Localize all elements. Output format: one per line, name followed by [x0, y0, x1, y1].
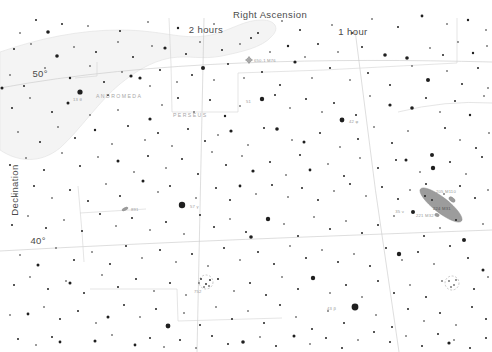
star [119, 30, 121, 32]
star [69, 282, 72, 285]
star [488, 132, 490, 134]
star [487, 87, 489, 89]
star [273, 263, 275, 265]
star [51, 111, 53, 113]
star [77, 310, 79, 312]
star [485, 318, 487, 320]
star [355, 114, 357, 116]
star [57, 126, 59, 128]
star [101, 274, 103, 276]
star [239, 43, 241, 45]
star [361, 46, 363, 48]
star [441, 280, 443, 282]
star [483, 95, 485, 97]
star [144, 139, 146, 141]
star [181, 158, 183, 160]
star [337, 261, 339, 263]
star [123, 304, 125, 306]
star [30, 43, 32, 45]
star [203, 286, 205, 288]
star [319, 132, 321, 134]
star [99, 213, 101, 215]
star [61, 152, 63, 154]
star-label: 205 M110 [436, 189, 456, 194]
star [227, 63, 229, 65]
star [305, 98, 307, 100]
star [472, 52, 474, 54]
star [453, 339, 455, 341]
galaxy-symbol [435, 213, 440, 217]
star [477, 67, 479, 69]
star [142, 180, 145, 183]
star [179, 339, 181, 341]
star [138, 76, 141, 79]
star [117, 109, 119, 111]
star [148, 117, 151, 120]
star [357, 138, 359, 140]
star [261, 71, 263, 73]
star [430, 153, 434, 157]
star [217, 278, 219, 280]
star [183, 233, 185, 235]
star [293, 60, 296, 63]
milky-way-region [0, 20, 276, 160]
star [55, 247, 57, 249]
star [209, 279, 211, 281]
star [13, 284, 15, 286]
star [339, 146, 341, 148]
star [297, 235, 299, 237]
star [369, 265, 371, 267]
star [285, 174, 287, 176]
star [266, 217, 270, 221]
star [407, 308, 409, 310]
star [177, 97, 179, 99]
star [87, 200, 89, 202]
star [257, 251, 259, 253]
star [183, 312, 185, 314]
star [317, 43, 319, 45]
star [175, 261, 177, 263]
star [132, 56, 134, 58]
star [425, 183, 427, 185]
star [442, 54, 444, 56]
star [45, 227, 47, 229]
star [309, 169, 312, 172]
star-label: 57 γ [190, 204, 199, 209]
star [391, 326, 393, 328]
star [397, 198, 399, 200]
star [211, 335, 213, 337]
star [89, 65, 91, 67]
star [197, 173, 199, 175]
star [388, 103, 391, 106]
star [421, 15, 424, 18]
star [301, 187, 303, 189]
open-cluster-symbol [445, 276, 459, 290]
star [111, 334, 113, 336]
star [431, 199, 433, 201]
star [325, 337, 327, 339]
star [233, 290, 235, 292]
star [209, 99, 211, 101]
star [275, 345, 277, 347]
constellation-boundary [238, 63, 457, 73]
bright-star [352, 304, 359, 311]
star [299, 154, 301, 156]
star [377, 167, 379, 169]
star [349, 183, 351, 185]
star-label: 752 [194, 289, 202, 294]
constellation-label: PERSEUS [173, 112, 208, 118]
star [259, 336, 261, 338]
star [155, 308, 157, 310]
star [208, 285, 210, 287]
star [250, 37, 252, 39]
star [281, 276, 283, 278]
star [475, 147, 477, 149]
grid-meridian [355, 30, 399, 352]
star [486, 45, 488, 47]
star [103, 81, 105, 83]
star [121, 71, 123, 73]
star [163, 46, 166, 49]
star [187, 128, 189, 130]
star [198, 282, 200, 284]
star [29, 276, 31, 278]
